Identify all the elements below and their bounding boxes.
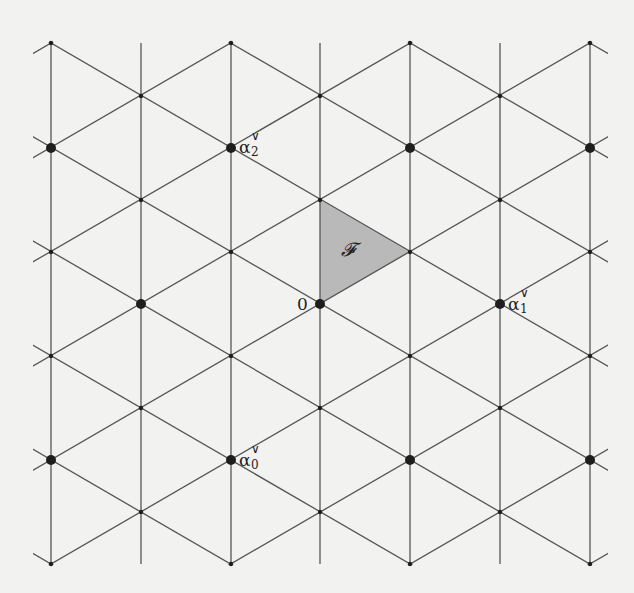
diagonal-wall: [0, 430, 634, 593]
coweight-dot: [46, 143, 56, 153]
label-alpha0-coroot: α ∨ 0: [239, 452, 250, 469]
coweight-dot: [495, 299, 505, 309]
vertex-dot: [498, 406, 502, 410]
lattice-lines: [0, 0, 634, 593]
diagonal-wall: [0, 0, 634, 69]
diagonal-wall: [0, 222, 634, 590]
vertex-dot: [588, 562, 592, 566]
vertex-dot: [318, 510, 322, 514]
diagonal-wall: [0, 0, 634, 277]
label-sub: 0: [251, 459, 259, 471]
coweight-dot: [585, 143, 595, 153]
vertex-dot: [229, 354, 233, 358]
label-sub: 2: [251, 146, 259, 158]
diagonal-wall: [0, 330, 634, 593]
vertex-dot: [408, 354, 412, 358]
vertex-dot: [139, 94, 143, 98]
vertex-dot: [588, 250, 592, 254]
label-sup: ∨: [251, 443, 260, 455]
vertex-dot: [408, 41, 412, 45]
vertex-dot: [588, 354, 592, 358]
label-alpha2-coroot: α ∨ 2: [239, 139, 250, 156]
vertex-dot: [498, 198, 502, 202]
coweight-dot: [585, 455, 595, 465]
diagonal-wall: [0, 0, 634, 281]
vertex-dot: [139, 406, 143, 410]
coweight-dot: [226, 455, 236, 465]
vertex-dot: [139, 510, 143, 514]
vertex-dot: [318, 94, 322, 98]
coweight-dot: [405, 455, 415, 465]
diagonal-wall: [0, 17, 634, 385]
diagonal-wall: [0, 534, 634, 593]
label-base: α: [508, 294, 519, 314]
label-fundamental-alcove: 𝓕: [341, 240, 355, 259]
label-origin: 0: [297, 296, 308, 313]
coweight-dot: [315, 299, 325, 309]
vertex-dot: [229, 250, 233, 254]
vertex-dot: [229, 562, 233, 566]
diagonal-wall: [0, 13, 634, 381]
vertex-dot: [408, 250, 412, 254]
vertex-dot: [498, 94, 502, 98]
vertex-dot: [229, 41, 233, 45]
label-base: α: [239, 450, 250, 470]
vertex-dot: [318, 198, 322, 202]
label-sup: ∨: [251, 130, 260, 142]
lattice-diagram: α ∨ 2 α ∨ 1 α ∨ 0 0 𝓕: [0, 0, 634, 593]
coweight-dot: [136, 299, 146, 309]
diagonal-wall: [0, 0, 634, 73]
vertex-dot: [408, 562, 412, 566]
diagonal-wall: [0, 326, 634, 593]
diagonal-wall: [0, 0, 634, 173]
vertex-dot: [588, 41, 592, 45]
vertex-dot: [49, 354, 53, 358]
vertex-dot: [49, 41, 53, 45]
coweight-dot: [405, 143, 415, 153]
diagonal-wall: [0, 0, 634, 177]
coweight-dot: [226, 143, 236, 153]
vertex-dot: [49, 562, 53, 566]
vertex-dot: [139, 198, 143, 202]
vertex-dot: [498, 510, 502, 514]
diagonal-wall: [0, 226, 634, 593]
label-sup: ∨: [520, 287, 529, 299]
label-sub: 1: [520, 303, 528, 315]
lattice-canvas: [0, 0, 634, 593]
label-base: α: [239, 137, 250, 157]
vertex-dot: [318, 406, 322, 410]
coweight-dot: [46, 455, 56, 465]
fundamental-alcove-shading: [320, 200, 410, 304]
diagonal-wall: [0, 538, 634, 593]
vertex-dot: [49, 250, 53, 254]
label-alpha1-coroot: α ∨ 1: [508, 296, 519, 313]
